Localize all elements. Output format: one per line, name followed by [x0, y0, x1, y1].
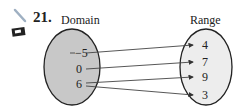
range-label: Range — [190, 13, 221, 28]
arrow-0-to-7 — [86, 62, 193, 69]
range-value: 4 — [202, 38, 208, 53]
range-value: 7 — [202, 55, 208, 70]
domain-set-ellipse — [44, 29, 100, 105]
domain-label: Domain — [61, 13, 100, 28]
domain-value: 0 — [76, 62, 82, 77]
mapping-arrows — [86, 45, 193, 95]
exercise-number: 21. — [33, 9, 52, 26]
arrow-neg5-to-4 — [86, 45, 193, 53]
arrow-6-to-9 — [86, 77, 193, 83]
range-value: 3 — [202, 88, 208, 103]
calculator-icon — [12, 27, 26, 37]
pencil-icon — [15, 10, 25, 21]
domain-value: 6 — [76, 77, 82, 92]
arrow-6-to-3 — [86, 86, 193, 95]
range-value: 9 — [202, 70, 208, 85]
domain-value: −5 — [75, 46, 88, 61]
